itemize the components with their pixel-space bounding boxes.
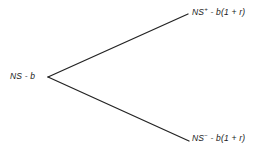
up-node-label: NS+ - b(1 + r) [192,8,245,17]
down-node-label: NS− - b(1 + r) [192,134,245,143]
up-branch-line [48,14,188,77]
up-node-base: NS [192,7,204,17]
root-node-base: NS [10,71,22,81]
root-node-tail: - b [22,71,35,81]
diagram-canvas: NS - b NS+ - b(1 + r) NS− - b(1 + r) [0,0,258,155]
tree-branches-group [0,0,258,155]
down-branch-line [48,77,189,141]
down-node-base: NS [192,133,204,143]
down-node-tail: - b(1 + r) [208,133,245,143]
up-node-tail: - b(1 + r) [208,7,245,17]
root-node-label: NS - b [10,72,35,81]
